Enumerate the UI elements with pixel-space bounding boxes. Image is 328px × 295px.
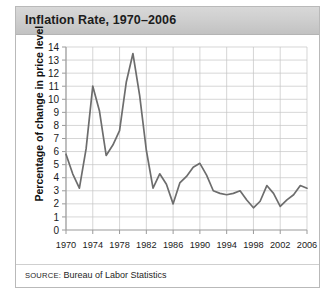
y-tick-label: 0	[53, 225, 59, 236]
y-tick-label: 11	[49, 81, 60, 92]
x-tick-label: 1978	[109, 240, 129, 250]
x-tick-label: 1986	[163, 240, 183, 250]
y-tick-label: 4	[53, 172, 59, 183]
y-tick-label: 12	[48, 68, 60, 79]
y-tick-label: 2	[53, 198, 59, 209]
y-tick-label: 10	[48, 94, 60, 105]
x-tick-label: 1998	[243, 240, 263, 250]
y-tick-label: 14	[48, 42, 60, 53]
x-tick-label: 2002	[270, 240, 290, 250]
y-tick-label: 13	[48, 55, 60, 66]
y-tick-label: 8	[53, 120, 59, 131]
line-chart-svg: 0123456789101112131419701974197819821986…	[16, 35, 319, 267]
x-tick-label: 1970	[56, 240, 76, 250]
page-title: Inflation Rate, 1970–2006	[25, 13, 176, 27]
x-tick-label: 2006	[297, 240, 317, 250]
x-tick-label: 1974	[83, 240, 103, 250]
y-tick-label: 9	[53, 107, 59, 118]
y-tick-label: 3	[53, 185, 59, 196]
plot-area: Percentage of change in price level 0123…	[16, 35, 319, 267]
y-tick-label: 5	[53, 159, 59, 170]
data-series-line	[66, 54, 307, 208]
source-prefix: SOURCE:	[25, 271, 61, 280]
x-tick-label: 1994	[216, 240, 236, 250]
source-bar: SOURCE: Bureau of Labor Statistics	[16, 264, 319, 287]
x-tick-label: 1990	[190, 240, 210, 250]
chart-figure: Inflation Rate, 1970–2006 Percentage of …	[15, 6, 320, 288]
y-tick-label: 7	[53, 133, 59, 144]
chart-title-bar: Inflation Rate, 1970–2006	[16, 7, 319, 35]
y-tick-label: 6	[53, 146, 59, 157]
x-tick-label: 1982	[136, 240, 156, 250]
source-body: Bureau of Labor Statistics	[61, 270, 167, 280]
source-note: SOURCE: Bureau of Labor Statistics	[25, 270, 167, 280]
y-tick-label: 1	[53, 212, 59, 223]
